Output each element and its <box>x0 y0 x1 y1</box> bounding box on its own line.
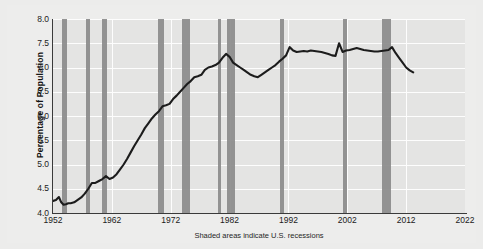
figure-frame: Percentage of Population 4.04.55.05.56.0… <box>7 5 476 243</box>
chart-root: Percentage of Population 4.04.55.05.56.0… <box>0 0 483 249</box>
x-tick-label: 1992 <box>268 215 308 225</box>
x-tick-label: 1972 <box>151 215 191 225</box>
y-tick-label: 7.0 <box>19 62 49 72</box>
x-tick-label: 2022 <box>445 215 483 225</box>
plot-area <box>53 19 465 213</box>
y-tick-label: 5.5 <box>19 135 49 145</box>
chart-footnote: Shaded areas indicate U.S. recessions <box>53 231 465 240</box>
y-tick-label: 7.5 <box>19 38 49 48</box>
x-tick-label: 1982 <box>210 215 250 225</box>
x-tick-label: 2012 <box>386 215 426 225</box>
data-series-line <box>53 19 465 213</box>
x-tick-label: 2002 <box>327 215 367 225</box>
y-tick-label: 5.0 <box>19 159 49 169</box>
x-tick-label: 1962 <box>92 215 132 225</box>
y-tick-label: 4.5 <box>19 183 49 193</box>
y-tick-label: 6.5 <box>19 86 49 96</box>
x-axis-tick-labels: 19521962197219821992200220122022 <box>53 215 465 229</box>
y-axis-tick-labels: 4.04.55.05.56.06.57.07.58.0 <box>15 19 49 213</box>
x-tick-label: 1952 <box>33 215 73 225</box>
y-tick-label: 6.0 <box>19 111 49 121</box>
y-tick-label: 8.0 <box>19 14 49 24</box>
